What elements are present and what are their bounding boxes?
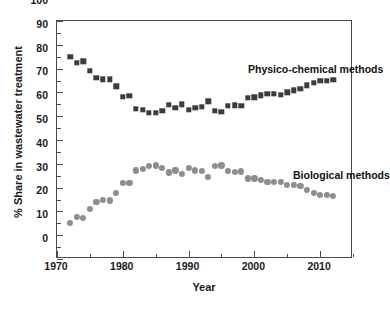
data-point (278, 92, 283, 97)
data-point (265, 91, 270, 96)
x-tick-label: 1990 (176, 260, 199, 272)
data-point (317, 78, 322, 83)
y-tick-minor (57, 57, 61, 58)
y-tick-label: 80 (36, 42, 48, 54)
y-tick-label: 70 (36, 65, 48, 77)
x-tick-major (254, 251, 255, 257)
data-point (225, 103, 230, 108)
data-point (271, 91, 276, 96)
data-point (225, 168, 231, 174)
data-point (87, 68, 92, 73)
data-point (278, 179, 284, 185)
x-tick-minor (156, 254, 157, 258)
x-tick-minor (221, 254, 222, 258)
data-point (285, 90, 290, 95)
x-tick-label: 1980 (110, 260, 133, 272)
y-tick-label: 40 (36, 137, 48, 149)
data-point (113, 84, 118, 89)
y-tick-major (57, 188, 63, 189)
data-point (317, 192, 323, 198)
x-axis-tick-labels: 19701980199020002010 (56, 260, 352, 278)
data-point (291, 88, 296, 93)
data-point (205, 174, 211, 180)
data-point (100, 77, 105, 82)
data-point (232, 103, 237, 108)
data-point (67, 220, 73, 226)
y-tick-minor (57, 200, 61, 201)
y-tick-major (57, 211, 63, 212)
data-point (179, 171, 185, 177)
y-tick-major (57, 140, 63, 141)
y-tick-minor (57, 81, 61, 82)
data-point (120, 180, 126, 186)
data-point (172, 167, 178, 173)
y-tick-label: 50 (36, 113, 48, 125)
data-point (120, 94, 125, 99)
data-point (107, 77, 112, 82)
data-point (298, 86, 303, 91)
y-tick-label: 100 (30, 0, 48, 6)
data-point (140, 107, 145, 112)
data-point (311, 80, 316, 85)
data-point (74, 60, 79, 65)
x-tick-label: 2000 (242, 260, 265, 272)
data-point (179, 102, 184, 107)
data-point (330, 193, 336, 199)
data-point (245, 175, 251, 181)
data-point (331, 77, 336, 82)
x-tick-minor (353, 254, 354, 258)
data-point (324, 78, 329, 83)
y-axis-title: % Share in wastewater treatment (12, 2, 24, 262)
x-tick-major (189, 251, 190, 257)
data-point (126, 180, 132, 186)
data-point (74, 214, 80, 220)
data-point (304, 83, 309, 88)
y-axis-tick-labels: 0102030405060708090100 (0, 0, 52, 238)
data-point (133, 106, 138, 111)
data-point (212, 163, 218, 169)
data-point (166, 102, 171, 107)
y-tick-minor (57, 176, 61, 177)
y-tick-major (57, 21, 63, 22)
data-point (258, 177, 264, 183)
x-tick-major (123, 251, 124, 257)
x-tick-major (320, 251, 321, 257)
data-point (113, 190, 119, 196)
y-tick-minor (57, 247, 61, 248)
data-point (186, 107, 191, 112)
data-point (271, 179, 277, 185)
data-point (192, 167, 198, 173)
y-tick-label: 10 (36, 208, 48, 220)
data-point (218, 162, 224, 168)
x-tick-major (57, 251, 58, 257)
x-tick-label: 2010 (307, 260, 330, 272)
y-tick-minor (57, 223, 61, 224)
data-point (146, 110, 151, 115)
data-point (87, 206, 93, 212)
y-tick-major (57, 116, 63, 117)
data-point (238, 103, 243, 108)
y-tick-major (57, 69, 63, 70)
data-point (166, 169, 172, 175)
data-point (80, 215, 86, 221)
data-point (199, 104, 204, 109)
data-point (291, 182, 297, 188)
data-point (127, 93, 132, 98)
y-tick-major (57, 235, 63, 236)
data-point (107, 197, 113, 203)
data-point (81, 59, 86, 64)
data-point (153, 162, 159, 168)
y-tick-label: 20 (36, 184, 48, 196)
data-point (212, 108, 217, 113)
data-point (245, 95, 250, 100)
y-tick-major (57, 92, 63, 93)
y-tick-label: 30 (36, 161, 48, 173)
data-point (304, 187, 310, 193)
data-point (160, 108, 165, 113)
data-point (251, 175, 257, 181)
data-point (284, 181, 290, 187)
data-point (159, 165, 165, 171)
y-tick-minor (57, 152, 61, 153)
y-tick-label: 60 (36, 89, 48, 101)
